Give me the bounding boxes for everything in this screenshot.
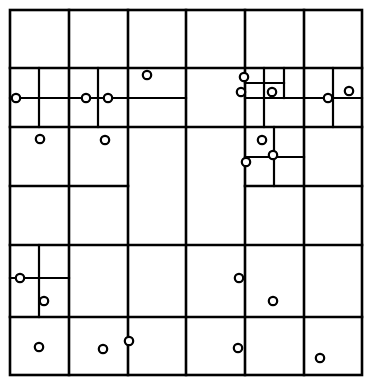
data-point <box>237 88 245 96</box>
data-point <box>82 94 90 102</box>
data-point <box>36 135 44 143</box>
data-point <box>268 88 276 96</box>
data-point <box>269 151 277 159</box>
data-point <box>258 136 266 144</box>
data-point <box>269 297 277 305</box>
data-point <box>16 274 24 282</box>
data-point <box>242 158 250 166</box>
data-point <box>143 71 151 79</box>
diagram-canvas <box>0 0 374 385</box>
data-point <box>40 297 48 305</box>
data-point <box>324 94 332 102</box>
data-point <box>240 73 248 81</box>
data-point <box>104 94 112 102</box>
data-point <box>234 344 242 352</box>
data-point <box>35 343 43 351</box>
data-point <box>12 94 20 102</box>
data-point <box>99 345 107 353</box>
data-point <box>101 136 109 144</box>
data-point <box>235 274 243 282</box>
data-point <box>345 87 353 95</box>
data-point <box>125 337 133 345</box>
subdivision-diagram <box>0 0 374 385</box>
data-point <box>316 354 324 362</box>
